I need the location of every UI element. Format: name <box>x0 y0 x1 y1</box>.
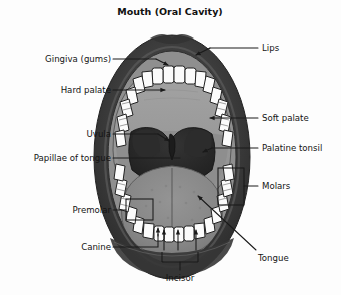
oral-cavity-figure: Mouth (Oral Cavity) <box>0 0 341 295</box>
label-lips: Lips <box>262 43 280 53</box>
label-gingiva: Gingiva (gums) <box>45 54 111 64</box>
label-tongue: Tongue <box>257 253 289 263</box>
page-title: Mouth (Oral Cavity) <box>117 6 222 17</box>
label-soft-palate: Soft palate <box>262 113 309 123</box>
label-hard-palate: Hard palate <box>61 85 111 95</box>
label-incisor: Incisor <box>166 273 195 283</box>
label-molars: Molars <box>262 181 291 191</box>
label-premolar: Premolar <box>73 205 112 215</box>
label-papillae-of-tongue: Papillae of tongue <box>34 153 111 163</box>
label-canine: Canine <box>81 242 111 252</box>
label-uvula: Uvula <box>87 129 111 139</box>
oral-cavity-diagram: Mouth (Oral Cavity) <box>0 0 341 295</box>
mouth-illustration <box>94 34 250 279</box>
label-palatine-tonsil: Palatine tonsil <box>262 143 322 153</box>
